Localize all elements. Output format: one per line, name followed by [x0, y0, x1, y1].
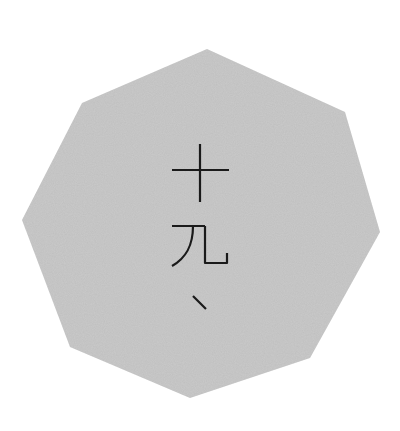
octagon-shape [22, 49, 380, 398]
octagon-badge: 十九、 [0, 0, 400, 431]
badge-graphic [0, 0, 400, 431]
